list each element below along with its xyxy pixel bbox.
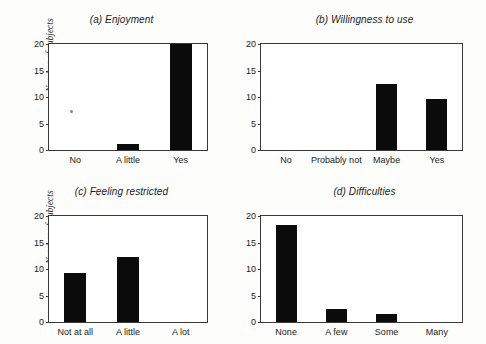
- panel-c-ytick-mark: [46, 322, 49, 323]
- panel-b-bar: [376, 84, 397, 150]
- panel-d-xtick-label: A few: [325, 327, 347, 337]
- panel-c-ytick-mark: [46, 296, 49, 297]
- panel-b-ytick-label: 15: [246, 66, 256, 76]
- panel-d-title: (d) Difficulties: [243, 186, 486, 197]
- panel-d-difficulties: (d) Difficulties 05101520NoneA fewSomeMa…: [243, 172, 486, 344]
- panel-a-ytick-mark: [46, 71, 49, 72]
- panel-d-ytick-mark: [258, 269, 261, 270]
- panel-c-bar: [64, 273, 86, 322]
- panel-b-xtick-label: Probably not: [311, 155, 362, 165]
- panel-d-xtick-label: Some: [375, 327, 399, 337]
- panel-c-ytick-mark: [46, 269, 49, 270]
- panel-c-xtick-label: A little: [116, 327, 140, 337]
- panel-c-feeling-restricted: (c) Feeling restricted Number of subject…: [0, 172, 243, 344]
- panel-a-ytick-mark: [46, 97, 49, 98]
- panel-d-ytick-mark: [258, 216, 261, 217]
- panel-a-ytick-label: 20: [34, 39, 44, 49]
- panel-c-ytick-label: 5: [39, 291, 44, 301]
- panel-d-ytick-label: 20: [246, 211, 256, 221]
- panel-d-ytick-mark: [258, 243, 261, 244]
- panel-d-ytick-label: 0: [251, 317, 256, 327]
- panel-b-willingness: (b) Willingness to use 05101520NoProbabl…: [243, 0, 486, 172]
- panel-c-plot-area: 05101520Not at allA littleA lot: [48, 215, 208, 323]
- panel-c-ytick-label: 20: [34, 211, 44, 221]
- panel-b-ytick-mark: [258, 97, 261, 98]
- panel-a-ytick-label: 0: [39, 145, 44, 155]
- panel-a-ytick-label: 15: [34, 66, 44, 76]
- panel-c-ytick-label: 10: [34, 264, 44, 274]
- panel-d-ytick-mark: [258, 296, 261, 297]
- panel-b-ytick-mark: [258, 150, 261, 151]
- panel-a-ytick-mark: [46, 44, 49, 45]
- panel-d-plot-area: 05101520NoneA fewSomeMany: [260, 215, 463, 323]
- panel-c-ytick-label: 0: [39, 317, 44, 327]
- panel-b-ytick-mark: [258, 71, 261, 72]
- panel-a-bar: [117, 144, 139, 150]
- panel-a-title: (a) Enjoyment: [0, 14, 243, 25]
- panel-b-xtick-label: Yes: [430, 155, 445, 165]
- panel-d-ytick-mark: [258, 322, 261, 323]
- panel-b-bar: [426, 99, 447, 150]
- panel-a-ytick-mark: [46, 150, 49, 151]
- panel-b-xtick-label: Maybe: [373, 155, 400, 165]
- panel-c-xtick-label: Not at all: [58, 327, 94, 337]
- panel-c-xtick-label: A lot: [172, 327, 190, 337]
- panel-d-ytick-label: 5: [251, 291, 256, 301]
- panel-c-ytick-mark: [46, 216, 49, 217]
- panel-a-xtick-label: No: [70, 155, 82, 165]
- panel-b-ytick-mark: [258, 124, 261, 125]
- panel-b-ytick-mark: [258, 44, 261, 45]
- panel-b-ytick-label: 0: [251, 145, 256, 155]
- panel-a-ytick-label: 10: [34, 92, 44, 102]
- figure-panel-grid: (a) Enjoyment Number of subjects 0510152…: [0, 0, 486, 344]
- panel-d-ytick-label: 10: [246, 264, 256, 274]
- panel-d-xtick-label: Many: [426, 327, 448, 337]
- panel-d-bar: [326, 309, 347, 322]
- panel-a-ytick-label: 5: [39, 119, 44, 129]
- panel-c-title: (c) Feeling restricted: [0, 186, 243, 197]
- panel-c-bar: [117, 257, 139, 322]
- panel-c-ytick-label: 15: [34, 238, 44, 248]
- panel-a-xtick-label: Yes: [173, 155, 188, 165]
- panel-a-plot-area: 05101520NoA littleYes: [48, 43, 208, 151]
- scan-speck-icon: [70, 110, 73, 113]
- panel-b-plot-area: 05101520NoProbably notMaybeYes: [260, 43, 463, 151]
- panel-b-ytick-label: 10: [246, 92, 256, 102]
- panel-a-xtick-label: A little: [116, 155, 140, 165]
- panel-d-xtick-label: None: [275, 327, 297, 337]
- panel-a-ytick-mark: [46, 124, 49, 125]
- panel-b-ytick-label: 5: [251, 119, 256, 129]
- panel-b-title: (b) Willingness to use: [243, 14, 486, 25]
- panel-c-ytick-mark: [46, 243, 49, 244]
- panel-a-enjoyment: (a) Enjoyment Number of subjects 0510152…: [0, 0, 243, 172]
- panel-a-bar: [170, 44, 192, 150]
- panel-b-ytick-label: 20: [246, 39, 256, 49]
- panel-d-ytick-label: 15: [246, 238, 256, 248]
- panel-b-xtick-label: No: [280, 155, 292, 165]
- panel-d-bar: [276, 225, 297, 322]
- panel-d-bar: [376, 314, 397, 322]
